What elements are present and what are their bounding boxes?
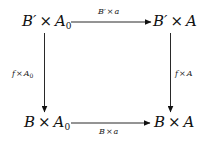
label-top-arrow: B′×a [98, 8, 119, 17]
times-operator: × [105, 127, 114, 136]
node-base: B′ [153, 12, 167, 30]
label-subscript: 0 [29, 72, 33, 79]
label-bottom-arrow: B×a [99, 128, 118, 137]
node-subscript: 0 [66, 21, 72, 31]
times-operator: × [178, 69, 187, 78]
node-bottom-right: B×A [154, 115, 194, 132]
node-bottom-left: B×A0 [24, 115, 70, 132]
label-factor: a [114, 7, 119, 16]
label-factor: a [114, 127, 119, 136]
commutative-diagram: B′×A0 B′×A B×A0 B×A B′×a B×a f×A0 f×A [0, 0, 205, 141]
label-base: B′ [98, 7, 106, 16]
times-operator: × [15, 69, 24, 78]
label-factor: A [187, 69, 193, 78]
times-operator: × [36, 12, 55, 30]
label-left-arrow: f×A0 [12, 70, 33, 79]
node-top-left: B′×A0 [22, 14, 72, 31]
node-base: B [154, 113, 165, 131]
times-operator: × [35, 113, 54, 131]
label-right-arrow: f×A [175, 70, 192, 79]
times-operator: × [165, 113, 184, 131]
node-base: B′ [22, 12, 36, 30]
label-base: B [99, 127, 105, 136]
node-factor: A [186, 12, 197, 30]
times-operator: × [167, 12, 186, 30]
node-subscript: 0 [64, 122, 70, 132]
node-factor: A [55, 12, 66, 30]
node-factor: A [54, 113, 65, 131]
node-top-right: B′×A [153, 14, 197, 31]
node-base: B [24, 113, 35, 131]
node-factor: A [184, 113, 195, 131]
